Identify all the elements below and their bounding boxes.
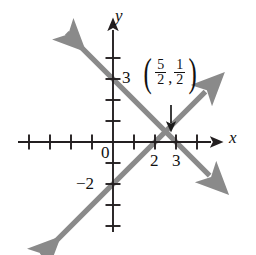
x-axis-label: x [229, 129, 237, 146]
origin-label: 0 [101, 144, 110, 161]
y-axis-label: y [115, 7, 123, 24]
x-tick-label-2: 2 [150, 152, 159, 169]
graph-canvas [0, 0, 256, 255]
y-axis [106, 30, 121, 232]
x-tick-label-3: 3 [172, 152, 181, 169]
paren-open: ( [144, 57, 152, 88]
y-tick-label-neg2: −2 [76, 175, 94, 192]
comma-separator: , [167, 69, 173, 88]
fraction-one-half: 1 2 [174, 58, 185, 88]
fraction-five-halves: 5 2 [155, 58, 166, 88]
paren-close: ) [189, 57, 197, 88]
intersection-point-label: ( 5 2 , 1 2 ) [141, 57, 200, 88]
line-ascending [42, 92, 206, 255]
graph-figure: x y 0 2 3 3 −2 ( 5 2 , 1 2 ) [0, 0, 256, 255]
y-tick-label-3: 3 [122, 69, 131, 86]
